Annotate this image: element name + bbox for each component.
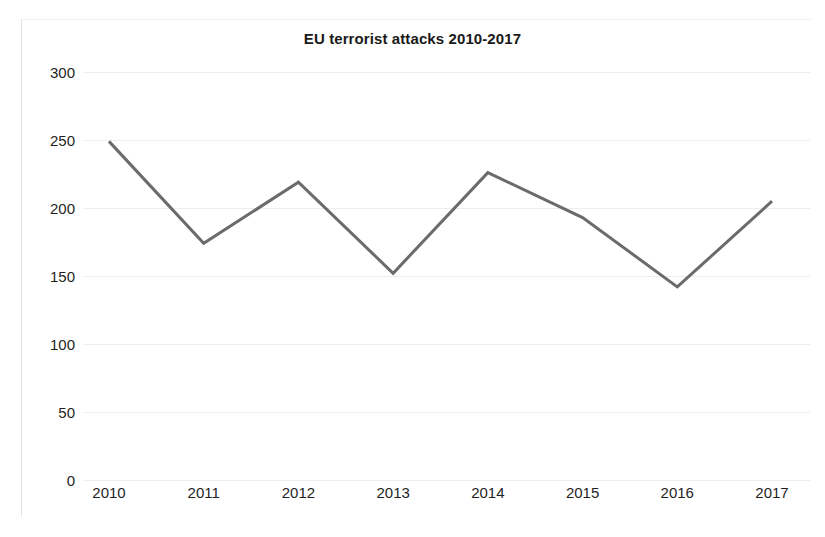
y-tick-label: 100 — [23, 336, 75, 353]
x-tick-label: 2010 — [92, 484, 125, 501]
x-tick-label: 2011 — [188, 484, 220, 501]
x-tick-label: 2013 — [376, 484, 409, 501]
x-tick-label: 2015 — [566, 484, 599, 501]
y-tick-label: 250 — [23, 132, 75, 149]
data-line — [109, 141, 772, 287]
y-tick-label: 150 — [23, 268, 75, 285]
chart-container: EU terrorist attacks 2010-2017 050100150… — [0, 0, 825, 537]
plot-area — [83, 72, 810, 480]
y-tick-label: 50 — [23, 404, 75, 421]
y-tick-label: 0 — [23, 472, 75, 489]
y-tick-label: 300 — [23, 64, 75, 81]
chart-title: EU terrorist attacks 2010-2017 — [0, 30, 825, 47]
y-tick-label: 200 — [23, 200, 75, 217]
y-axis-tick-labels: 050100150200250300 — [20, 72, 75, 480]
x-tick-label: 2014 — [471, 484, 504, 501]
x-tick-label: 2016 — [661, 484, 694, 501]
x-tick-label: 2012 — [282, 484, 315, 501]
line-series-svg — [83, 72, 810, 480]
x-axis-tick-labels: 20102011201220132014201520162017 — [83, 484, 810, 514]
gridline — [83, 480, 810, 481]
x-tick-label: 2017 — [755, 484, 788, 501]
